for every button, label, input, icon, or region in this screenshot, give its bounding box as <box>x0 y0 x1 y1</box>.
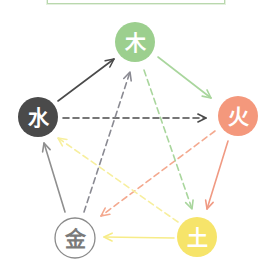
wood-label: 木 <box>124 31 147 55</box>
arrowhead-icon <box>186 200 193 209</box>
five-elements-diagram: 木火土金水 <box>0 0 272 278</box>
generating-arrow-fire-to-earth <box>206 141 228 209</box>
generating-arrow-metal-to-water <box>43 143 65 212</box>
overcoming-arrow-fire-to-metal <box>101 131 215 216</box>
metal-label: 金 <box>64 227 87 251</box>
generating-arrow-water-to-wood <box>58 59 114 101</box>
node-wood: 木 <box>115 22 155 62</box>
overcoming-arrow-wood-to-earth <box>144 70 193 209</box>
earth-label: 土 <box>187 226 208 250</box>
overcoming-arrow-earth-to-water <box>58 138 178 222</box>
node-fire: 火 <box>218 96 258 136</box>
generating-arrow-wood-to-fire <box>158 57 211 98</box>
overcoming-arrow-water-to-fire <box>63 114 206 122</box>
generating-arrow-earth-to-metal <box>104 233 174 241</box>
generating-cycle-arrows <box>43 57 228 241</box>
node-water: 水 <box>18 97 58 137</box>
water-label: 水 <box>28 106 50 130</box>
node-earth: 土 <box>177 217 217 257</box>
overcoming-arrow-metal-to-wood <box>84 72 131 212</box>
element-nodes: 木火土金水 <box>18 22 258 258</box>
fire-label: 火 <box>228 105 249 129</box>
node-metal: 金 <box>55 218 95 258</box>
overcoming-cycle-arrows <box>58 70 215 222</box>
